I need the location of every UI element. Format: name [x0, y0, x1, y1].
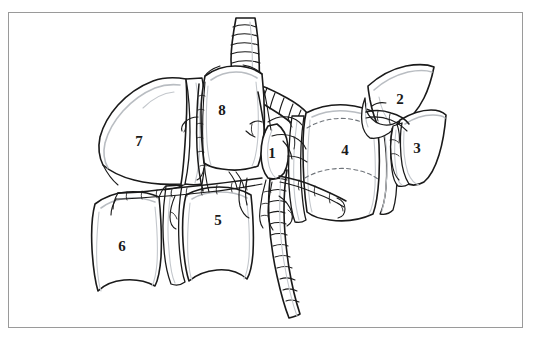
segment-7-block	[99, 78, 187, 185]
segment-label-2: 2	[396, 92, 404, 107]
segment-label-3: 3	[413, 141, 421, 156]
segment-label-7: 7	[135, 134, 143, 149]
segment-label-8: 8	[218, 103, 226, 118]
anatomy-illustration: .ink { fill:none; stroke:#1a1a1a; stroke…	[0, 0, 533, 340]
figure-root: .ink { fill:none; stroke:#1a1a1a; stroke…	[0, 0, 533, 340]
segment-label-5: 5	[214, 213, 222, 228]
segment-label-6: 6	[118, 239, 126, 254]
illustration-group	[92, 18, 446, 318]
segment-label-4: 4	[341, 143, 349, 158]
segment-6-block	[92, 192, 162, 291]
segment-8-block	[201, 66, 264, 170]
segment-label-1: 1	[268, 146, 276, 161]
segment-5-block	[183, 187, 254, 281]
